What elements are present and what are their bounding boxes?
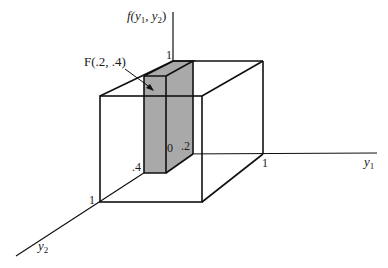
cdf-diagram: f(y1, y2) F(.2, .4) 1 0 .2 .4 1 1 y1 y2 bbox=[0, 0, 388, 268]
y1-tick-1: 1 bbox=[262, 156, 268, 170]
annotation-label: F(.2, .4) bbox=[84, 54, 126, 69]
y2-tick-point4: .4 bbox=[132, 160, 141, 174]
shaded-region-slab bbox=[144, 61, 193, 173]
y2-tick-1: 1 bbox=[89, 193, 95, 207]
vertical-axis-label: f(y1, y2) bbox=[127, 8, 166, 25]
vertical-tick-1: 1 bbox=[166, 48, 172, 62]
y1-axis bbox=[173, 153, 377, 154]
origin-label: 0 bbox=[167, 141, 173, 155]
y1-axis-label: y1 bbox=[362, 154, 374, 171]
y1-tick-point2: .2 bbox=[181, 139, 190, 153]
y2-axis-label: y2 bbox=[36, 238, 48, 255]
